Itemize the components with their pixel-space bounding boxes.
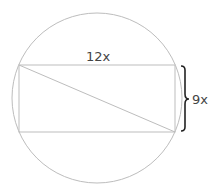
rectangle-diagonal bbox=[19, 65, 175, 132]
width-label: 12x bbox=[86, 49, 111, 64]
height-label: 9x bbox=[192, 92, 208, 107]
diagram-canvas: 12x 9x bbox=[0, 0, 215, 192]
